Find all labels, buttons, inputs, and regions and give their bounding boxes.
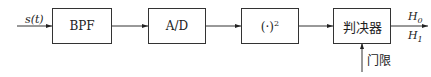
decision-label: 判决器 bbox=[343, 17, 382, 36]
input-signal-label: s(t) bbox=[25, 14, 44, 25]
decision-block: 判决器 bbox=[333, 8, 391, 44]
square-label: (·)2 bbox=[261, 19, 279, 34]
bpf-label: BPF bbox=[69, 19, 94, 33]
bpf-block: BPF bbox=[52, 8, 112, 44]
ad-block: A/D bbox=[148, 8, 206, 44]
threshold-label: 门限 bbox=[367, 55, 391, 67]
square-block: (·)2 bbox=[241, 8, 299, 44]
output-h0-label: H0 bbox=[408, 11, 423, 25]
output-h1-label: H1 bbox=[408, 30, 423, 44]
ad-label: A/D bbox=[166, 19, 188, 33]
